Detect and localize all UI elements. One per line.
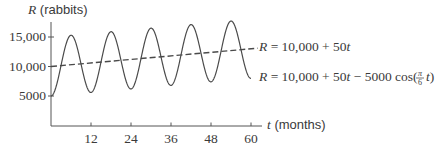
annotation-text: = 10,000 + 50 (267, 39, 347, 54)
y-tick-label-10000: 10,000 (9, 59, 46, 74)
fraction-denominator: 6 (418, 78, 422, 87)
x-tick-label-24: 24 (124, 131, 138, 146)
y-tick-label-15000: 15,000 (9, 29, 46, 44)
oscillating-curve-label-tail: t) (426, 69, 434, 84)
x-tick-labels: 12 24 36 48 60 (84, 131, 258, 146)
x-tick-label-48: 48 (204, 131, 218, 146)
x-tick-label-36: 36 (164, 131, 178, 146)
annotation-text: ) (430, 69, 435, 84)
trend-line-dashed (51, 48, 258, 66)
y-axis-unit: (rabbits) (36, 2, 87, 17)
oscillating-curve-label: R = 10,000 + 50t − 5000 cos( (258, 69, 418, 84)
x-axis-unit: (months) (271, 117, 326, 132)
chart: 15,000 10,000 5000 12 24 36 48 60 R (rab… (0, 0, 439, 155)
annotation-text: − 5000 cos( (350, 69, 418, 84)
x-tick-label-60: 60 (244, 131, 258, 146)
y-tick-labels: 15,000 10,000 5000 (9, 29, 46, 103)
fraction-numerator: π (418, 69, 423, 78)
annotation-var: t (347, 39, 352, 54)
x-ticks (91, 123, 251, 127)
trend-line-label: R = 10,000 + 50t (258, 39, 352, 54)
x-axis-title: t (months) (267, 117, 326, 132)
annotation-text: = 10,000 + 50 (267, 69, 347, 84)
y-tick-label-5000: 5000 (19, 88, 46, 103)
y-axis-title: R (rabbits) (27, 2, 88, 17)
oscillating-curve (51, 21, 251, 96)
x-tick-label-12: 12 (84, 131, 98, 146)
